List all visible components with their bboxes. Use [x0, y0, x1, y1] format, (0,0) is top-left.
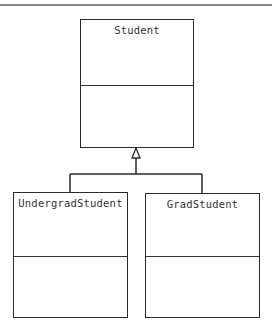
inheritance-connector: [0, 0, 272, 332]
generalization-arrow-icon: [132, 148, 140, 158]
